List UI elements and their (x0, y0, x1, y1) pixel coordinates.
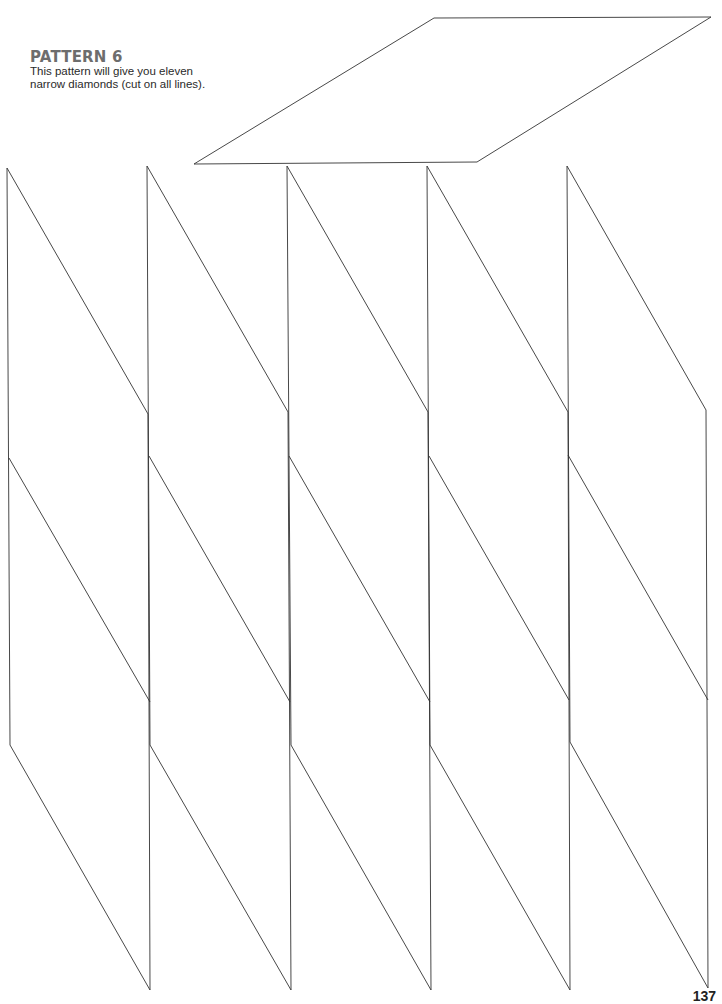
page-number: 137 (693, 988, 716, 1004)
diamond-column-4 (427, 166, 570, 990)
diamond-column-2 (147, 166, 291, 990)
diamond-column-3 (287, 166, 431, 990)
diamond-column-1 (7, 168, 150, 990)
top-diamond (194, 17, 711, 164)
diamond-column-5 (567, 166, 708, 988)
